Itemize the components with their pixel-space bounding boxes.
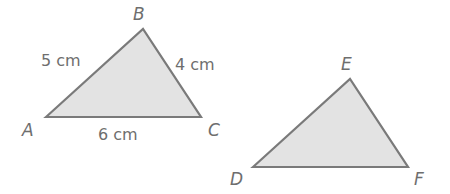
vertex-f-label: F [414, 169, 424, 189]
vertex-e-label: E [341, 54, 352, 74]
vertex-d-label: D [230, 169, 243, 189]
side-ac-length: 6 cm [98, 125, 138, 144]
triangle-def-shape [253, 79, 408, 167]
vertex-b-label: B [133, 4, 145, 24]
side-bc-length: 4 cm [175, 55, 215, 74]
side-ab-length: 5 cm [41, 51, 81, 70]
triangle-def: E D F [230, 54, 424, 189]
vertex-a-label: A [21, 120, 34, 140]
vertex-c-label: C [208, 120, 220, 140]
triangle-abc: B A C 5 cm 4 cm 6 cm [21, 4, 220, 144]
similar-triangles-diagram: B A C 5 cm 4 cm 6 cm E D F [0, 0, 450, 194]
